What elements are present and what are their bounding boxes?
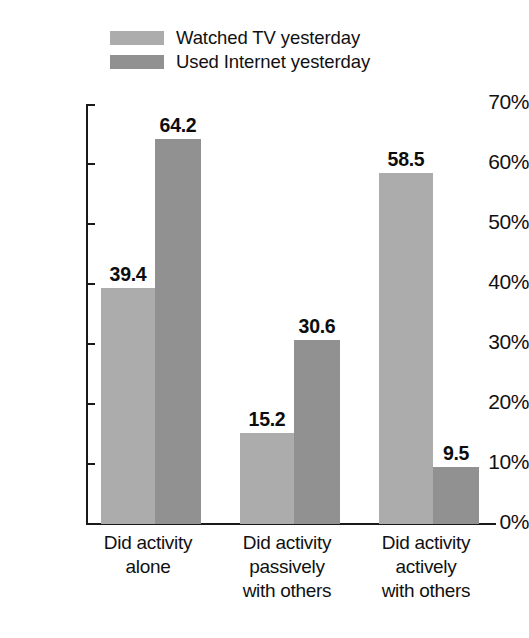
x-axis-category-label: Did activityactivelywith others: [366, 531, 486, 603]
x-axis-category-label: Did activityalone: [88, 531, 208, 579]
bar-value-label: 39.4: [98, 263, 158, 286]
bar: [294, 340, 340, 524]
category-label-line: with others: [366, 579, 486, 603]
x-axis-category-label: Did activitypassivelywith others: [227, 531, 347, 603]
bar-value-label: 15.2: [237, 408, 297, 431]
bar: [101, 288, 155, 524]
bar: [240, 433, 294, 524]
bar: [379, 173, 433, 524]
bars-layer: 39.464.215.230.658.59.5: [0, 104, 529, 524]
category-label-line: Did activity: [366, 531, 486, 555]
bar-value-label: 64.2: [148, 114, 208, 137]
category-label-line: actively: [366, 555, 486, 579]
bar-value-label: 58.5: [376, 148, 436, 171]
category-label-line: with others: [227, 579, 347, 603]
bar: [433, 467, 479, 524]
bar-chart: Watched TV yesterday Used Internet yeste…: [0, 0, 529, 638]
bar: [155, 139, 201, 524]
category-label-line: alone: [88, 555, 208, 579]
category-label-line: Did activity: [88, 531, 208, 555]
category-label-line: passively: [227, 555, 347, 579]
plot-area: 70%60%50%40%30%20%10%0% 39.464.215.230.6…: [0, 0, 529, 638]
category-label-line: Did activity: [227, 531, 347, 555]
bar-value-label: 30.6: [287, 315, 347, 338]
bar-value-label: 9.5: [426, 442, 486, 465]
